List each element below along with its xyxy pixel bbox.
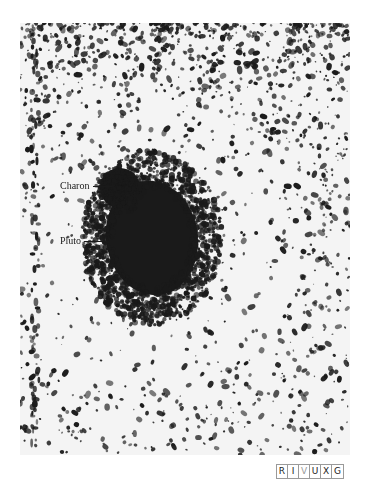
pluto-leader-line <box>84 241 105 242</box>
band-r: R <box>277 465 288 478</box>
charon-leader-line <box>93 186 112 187</box>
charon-label: Charon <box>60 181 89 191</box>
band-g: G <box>332 465 343 478</box>
band-i: I <box>288 465 299 478</box>
pluto-label: Pluto <box>60 236 81 246</box>
band-u: U <box>310 465 321 478</box>
band-x: X <box>321 465 332 478</box>
wavelength-band-indicator: R I V U X G <box>276 464 344 479</box>
band-v: V <box>299 465 310 478</box>
